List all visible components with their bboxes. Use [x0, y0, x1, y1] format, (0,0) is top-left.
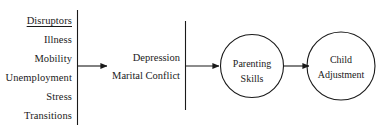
path-diagram: Disruptors Illness Mobility Unemployment… [0, 0, 380, 131]
node-label-child-adjustment-line2: Adjustment [306, 67, 376, 82]
mediators-list: Depression Marital Conflict [108, 49, 180, 85]
node-label-parenting-skills-line1: Parenting [220, 56, 284, 71]
disruptor-item-mobility: Mobility [0, 49, 72, 68]
node-label-parenting-skills: Parenting Skills [220, 56, 284, 86]
node-label-parenting-skills-line2: Skills [220, 71, 284, 86]
disruptors-heading: Disruptors [0, 11, 72, 30]
disruptor-item-unemployment: Unemployment [0, 68, 72, 87]
disruptor-item-stress: Stress [0, 87, 72, 106]
mediator-item-depression: Depression [108, 49, 180, 67]
disruptors-list: Disruptors Illness Mobility Unemployment… [0, 11, 72, 125]
disruptor-item-transitions: Transitions [0, 106, 72, 125]
disruptor-item-illness: Illness [0, 30, 72, 49]
node-label-child-adjustment: Child Adjustment [306, 52, 376, 82]
mediator-item-marital-conflict: Marital Conflict [108, 67, 180, 85]
diagram-text-layer: Disruptors Illness Mobility Unemployment… [0, 0, 380, 131]
node-label-child-adjustment-line1: Child [306, 52, 376, 67]
